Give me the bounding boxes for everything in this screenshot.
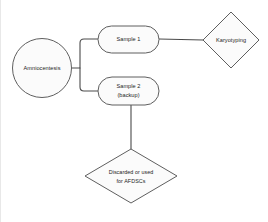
discarded-diamond-shape (85, 149, 177, 203)
sample-2-label-line-2: (backup) (117, 92, 139, 98)
connector-amniocentesis-to-sample-2 (80, 68, 98, 91)
discarded-label-line-1: Discarded or used (109, 169, 154, 175)
connector-amniocentesis-to-sample-1 (72, 39, 99, 68)
karyotyping-label: Karyotyping (216, 37, 246, 43)
connector-sample-1-to-karyotyping (159, 39, 203, 40)
node-sample-1[interactable]: Sample 1 (98, 26, 159, 53)
flowchart-canvas: Amniocentesis Sample 1 Sample 2 (backup)… (0, 0, 268, 222)
node-amniocentesis[interactable]: Amniocentesis (13, 39, 72, 98)
discarded-label-line-2: for AFDSCs (117, 178, 146, 184)
node-karyotyping[interactable]: Karyotyping (203, 12, 259, 68)
sample-2-label-line-1: Sample 2 (116, 83, 140, 89)
node-sample-2[interactable]: Sample 2 (backup) (98, 77, 159, 105)
sample-1-label: Sample 1 (116, 36, 140, 42)
amniocentesis-label: Amniocentesis (23, 65, 60, 71)
sample-2-box-shape (98, 77, 159, 105)
node-discarded[interactable]: Discarded or used for AFDSCs (85, 149, 177, 203)
flowchart-svg: Amniocentesis Sample 1 Sample 2 (backup)… (1, 0, 268, 222)
